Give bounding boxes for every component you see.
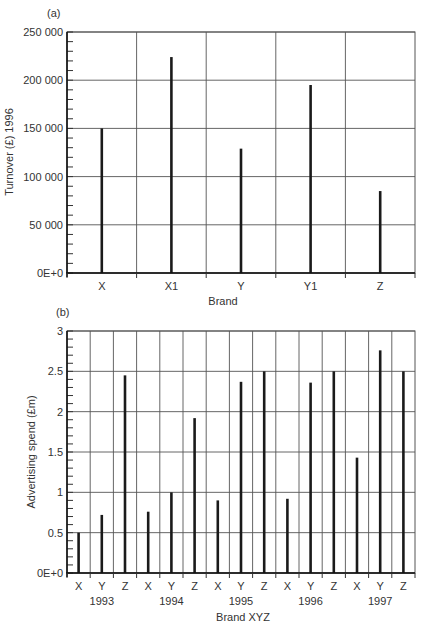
panel-b-bars [79,350,404,573]
panel-a-x-axis-title: Brand [208,295,237,307]
panel-a-x-axis: XX1YY1Z [66,273,415,292]
x-tick-label: Y [237,280,245,292]
y-tick-label: 100 000 [23,171,63,183]
y-tick-label: 150 000 [23,122,63,134]
x-tick-label: Y [377,580,385,592]
y-tick-label: 3 [57,325,63,337]
x-tick-label: X [214,580,222,592]
y-tick-label: 1 [57,486,63,498]
y-tick-label: 0E+0 [37,567,63,579]
x-tick-label: Z [400,580,407,592]
y-tick-label: 2 [57,406,63,418]
year-group-label: 1996 [298,595,322,607]
year-group-label: 1995 [229,595,253,607]
x-tick-label: Y [307,580,315,592]
x-tick-label: X [353,580,361,592]
x-tick-label: X [98,280,106,292]
y-tick-label: 50 000 [29,219,63,231]
x-tick-label: X1 [165,280,178,292]
figure-canvas: (a) 0E+050 000100 000150 000200 000250 0… [0,0,427,634]
panel-b-year-groups: 19931994199519961997 [90,595,393,607]
panel-b-label: (b) [56,306,69,318]
y-tick-label: 0E+0 [37,267,63,279]
x-tick-label: Z [122,580,129,592]
year-group-label: 1997 [368,595,392,607]
x-tick-label: X [145,580,153,592]
y-tick-label: 0.5 [48,527,63,539]
x-tick-label: Y1 [304,280,317,292]
x-tick-label: Y [168,580,176,592]
panel-a-bars [102,57,380,273]
panel-a-label: (a) [47,7,60,19]
x-tick-label: X [75,580,83,592]
panel-b-y-axis: 0E+00.511.522.53 [37,325,73,579]
panel-a-y-axis-title: Turnover (£) 1996 [3,108,15,196]
x-tick-label: Y [237,580,245,592]
chart-panel-a: (a) 0E+050 000100 000150 000200 000250 0… [3,7,415,307]
x-tick-label: Z [330,580,337,592]
x-tick-label: Z [191,580,198,592]
panel-b-x-axis-title: Brand XYZ [216,611,270,623]
chart-panel-b: (b) 0E+00.511.522.53 XYZXYZXYZXYZXYZ 199… [25,306,415,623]
panel-b-y-axis-title: Advertising spend (£m) [25,395,37,508]
y-tick-label: 200 000 [23,74,63,86]
year-group-label: 1993 [90,595,114,607]
x-tick-label: Z [377,280,384,292]
panel-b-x-axis: XYZXYZXYZXYZXYZ [66,573,415,592]
x-tick-label: Y [98,580,106,592]
x-tick-label: X [284,580,292,592]
y-tick-label: 2.5 [48,365,63,377]
y-tick-label: 1.5 [48,446,63,458]
y-tick-label: 250 000 [23,26,63,38]
x-tick-label: Z [261,580,268,592]
panel-a-y-axis: 0E+050 000100 000150 000200 000250 000 [23,26,73,279]
year-group-label: 1994 [159,595,183,607]
